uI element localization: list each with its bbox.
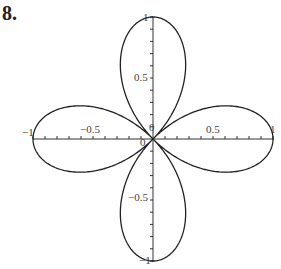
y-tick-label-0: 0 [149,121,155,133]
y-tick-label-neg05: −0.5 [128,191,148,203]
x-tick-label-neg1: −1 [22,126,34,138]
y-tick-label-05: 0.5 [134,71,148,83]
polar-plot: −1 −0.5 0 0.5 1 1 0.5 0 −0.5 −1 [0,0,281,269]
x-tick-label-05: 0.5 [206,123,220,135]
x-tick-label-neg05: −0.5 [80,123,100,135]
